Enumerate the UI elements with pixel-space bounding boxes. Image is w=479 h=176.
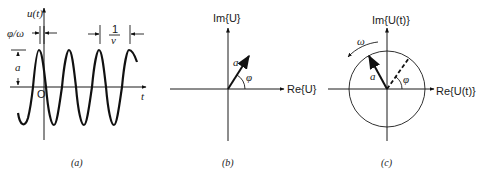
phase-offset-label: φ/ω (7, 27, 24, 39)
origin-label: O (37, 88, 46, 100)
rotation-label: ω (357, 35, 365, 47)
panel-c-rotating-phasor: ω a φ Im{U(t)} Re{U(t)} (c) (328, 14, 476, 169)
period-denominator: ν (111, 34, 116, 46)
im-axis-label-c: Im{U(t)} (372, 14, 410, 26)
panel-a-time-signal: a φ/ω 1 ν u(t) O t (a) (7, 7, 146, 169)
angle-label-b: φ (246, 71, 252, 83)
im-axis-label-b: Im{U} (213, 12, 241, 24)
phasor-figure: a φ/ω 1 ν u(t) O t (a) a φ Im{U} Re{U} (… (0, 0, 479, 176)
panel-b-static-phasor: a φ Im{U} Re{U} (b) (170, 12, 317, 169)
t-axis-label: t (141, 90, 145, 102)
caption-c: (c) (381, 157, 393, 169)
vector-label-b: a (233, 56, 239, 68)
caption-b: (b) (222, 157, 234, 169)
angle-label-c: φ (403, 73, 409, 85)
vector-label-c: a (370, 70, 376, 82)
caption-a: (a) (71, 157, 83, 169)
u-axis-label: u(t) (27, 7, 43, 20)
amplitude-label: a (15, 61, 21, 73)
angle-arc-c (396, 77, 402, 89)
re-axis-label-c: Re{U(t)} (436, 85, 476, 97)
angle-arc-b (237, 75, 245, 89)
re-axis-label-b: Re{U} (287, 83, 317, 95)
